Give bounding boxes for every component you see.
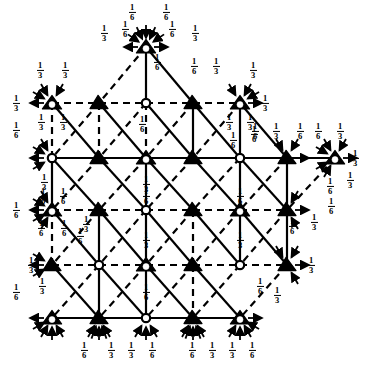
open-circle-node[interactable] (236, 261, 244, 269)
fraction-numerator: 1 (226, 131, 240, 139)
fraction-numerator: 1 (9, 201, 23, 209)
fraction-label: 16 (135, 115, 149, 133)
inbound-arrow (324, 139, 331, 150)
fraction-label: 13 (34, 113, 48, 131)
fraction-label: 16 (245, 341, 259, 359)
open-circle-node[interactable] (142, 314, 150, 322)
fraction-numerator: 1 (77, 341, 91, 349)
fraction-numerator: 1 (159, 3, 173, 11)
fraction-numerator: 1 (104, 341, 118, 349)
fraction-numerator: 1 (307, 213, 321, 221)
fraction-label: 13 (104, 341, 118, 359)
inbound-arrow (33, 92, 44, 99)
node-inner-circle (143, 157, 149, 163)
fraction-denominator: 3 (304, 266, 318, 274)
fraction-denominator: 6 (165, 30, 179, 38)
fraction-numerator: 1 (270, 286, 284, 294)
fraction-label: 13 (139, 231, 153, 249)
inbound-arrow (229, 84, 236, 95)
fraction-numerator: 1 (24, 256, 38, 264)
inbound-arrow (41, 326, 48, 337)
fraction-numerator: 1 (145, 341, 159, 349)
fraction-denominator: 3 (225, 351, 239, 359)
fraction-denominator: 3 (333, 132, 347, 140)
fraction-numerator: 1 (33, 61, 47, 69)
fraction-label: 16 (57, 219, 71, 237)
fraction-denominator: 3 (33, 71, 47, 79)
fraction-numerator: 1 (124, 341, 138, 349)
fraction-denominator: 3 (209, 67, 223, 75)
open-circle-node[interactable] (142, 206, 150, 214)
fraction-label: 13 (58, 61, 72, 79)
fraction-label: 13 (124, 341, 138, 359)
fraction-denominator: 3 (246, 71, 260, 79)
fraction-label: 16 (324, 197, 338, 215)
fraction-numerator: 1 (225, 341, 239, 349)
dashed-edge (99, 47, 146, 103)
fraction-numerator: 1 (57, 219, 71, 227)
fraction-label: 16 (34, 219, 48, 237)
fraction-denominator: 6 (323, 187, 337, 195)
fraction-denominator: 6 (187, 67, 201, 75)
fraction-denominator: 3 (104, 351, 118, 359)
fraction-label: 16 (118, 20, 132, 38)
fraction-denominator: 6 (9, 293, 23, 301)
fraction-denominator: 6 (150, 63, 164, 71)
inbound-arrow (151, 326, 158, 337)
fraction-denominator: 3 (307, 223, 321, 231)
fraction-label: 13 (205, 341, 219, 359)
fraction-numerator: 1 (343, 171, 357, 179)
fraction-denominator: 3 (56, 123, 70, 131)
fraction-denominator: 3 (124, 351, 138, 359)
fraction-label: 13 (222, 113, 236, 131)
fraction-numerator: 1 (56, 187, 70, 195)
open-circle-node[interactable] (95, 261, 103, 269)
fraction-label: 16 (73, 227, 87, 245)
fraction-label: 16 (185, 341, 199, 359)
fraction-numerator: 1 (135, 115, 149, 123)
fraction-numerator: 1 (245, 341, 259, 349)
fraction-label: 13 (97, 24, 111, 42)
fraction-denominator: 3 (258, 104, 272, 112)
fraction-label: 16 (125, 3, 139, 21)
fraction-numerator: 1 (139, 231, 153, 239)
inbound-arrow (316, 147, 327, 154)
fraction-denominator: 6 (9, 211, 23, 219)
fraction-denominator: 3 (97, 34, 111, 42)
fraction-label: 16 (253, 277, 267, 295)
fraction-label: 13 (9, 94, 23, 112)
fraction-numerator: 1 (269, 122, 283, 130)
open-circle-node[interactable] (142, 99, 150, 107)
fraction-numerator: 1 (36, 187, 50, 195)
fraction-denominator: 6 (139, 197, 153, 205)
fraction-denominator: 6 (253, 287, 267, 295)
fraction-label: 16 (247, 125, 261, 143)
fraction-numerator: 1 (9, 94, 23, 102)
open-circle-node[interactable] (236, 154, 244, 162)
fraction-denominator: 3 (205, 351, 219, 359)
inbound-arrow (150, 27, 155, 39)
fraction-numerator: 1 (293, 122, 307, 130)
inbound-arrow (41, 139, 48, 150)
inbound-arrow (33, 163, 44, 170)
node-inner-circle (143, 46, 149, 52)
fraction-label: 13 (304, 256, 318, 274)
fraction-denominator: 6 (77, 351, 91, 359)
fraction-numerator: 1 (139, 175, 153, 183)
fraction-denominator: 6 (9, 131, 23, 139)
fraction-numerator: 1 (209, 57, 223, 65)
fraction-numerator: 1 (34, 219, 48, 227)
fraction-numerator: 1 (233, 231, 247, 239)
fraction-label: 16 (9, 121, 23, 139)
fraction-label: 13 (56, 113, 70, 131)
fraction-numerator: 1 (150, 53, 164, 61)
open-circle-node[interactable] (48, 154, 56, 162)
inbound-arrow (33, 147, 44, 154)
fraction-denominator: 6 (135, 125, 149, 133)
inbound-arrow (292, 191, 299, 202)
fraction-label: 16 (285, 217, 299, 235)
fraction-numerator: 1 (73, 227, 87, 235)
fraction-denominator: 6 (34, 229, 48, 237)
fraction-label: 13 (35, 277, 49, 295)
fraction-numerator: 1 (9, 121, 23, 129)
